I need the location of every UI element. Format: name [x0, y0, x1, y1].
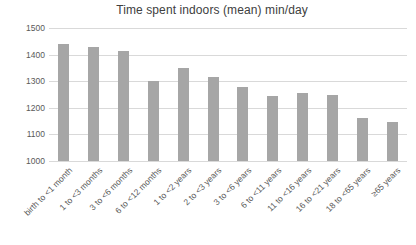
bar [208, 77, 219, 161]
y-axis-tick-label: 1500 [5, 24, 45, 33]
chart-title: Time spent indoors (mean) min/day [0, 3, 416, 17]
bar [267, 96, 278, 161]
bar [148, 81, 159, 161]
bar [357, 118, 368, 161]
gridline [49, 81, 407, 82]
y-axis-tick-label: 1200 [5, 104, 45, 113]
gridline [49, 108, 407, 109]
bar [178, 68, 189, 161]
gridline [49, 161, 407, 162]
bar-chart: Time spent indoors (mean) min/day 100011… [0, 0, 416, 245]
y-axis-tick-label: 1300 [5, 77, 45, 86]
y-axis-tick-label: 1000 [5, 157, 45, 166]
bar [58, 44, 69, 161]
bar [88, 47, 99, 161]
y-axis-tick-label: 1400 [5, 51, 45, 60]
bar [237, 87, 248, 161]
gridline [49, 55, 407, 56]
gridline [49, 134, 407, 135]
bar [387, 122, 398, 161]
gridline [49, 28, 407, 29]
y-axis-tick-label: 1100 [5, 130, 45, 139]
bar [118, 51, 129, 161]
bar [297, 93, 308, 161]
bar [327, 95, 338, 162]
plot-area [49, 28, 407, 161]
